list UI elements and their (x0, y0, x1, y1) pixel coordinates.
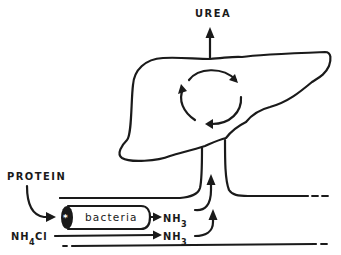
nh3-top-arrow-head-icon (207, 174, 216, 185)
protein-arrow-head-icon (46, 212, 56, 222)
nh3-top-to-portal-arrow (195, 181, 211, 210)
nh3-bottom-arrow-head-icon (209, 209, 218, 220)
bacteria-star-icon: * (63, 213, 68, 223)
intestine-bottom-wall (72, 244, 316, 246)
cycle-arc-top (189, 70, 236, 80)
protein-label: PROTEIN (7, 170, 66, 183)
urea-label: UREA (195, 7, 231, 20)
cycle-arrow-left-icon (178, 84, 187, 94)
bacteria-to-nh3-head-icon (153, 213, 162, 222)
nh3-top-subscript: 3 (181, 219, 187, 229)
bacteria-label: bacteria (85, 211, 138, 223)
nh3-bottom-label: NH (163, 230, 182, 243)
ammonia-urea-diagram: UREA PROTEIN * bacteria NH (0, 0, 341, 255)
protein-input: PROTEIN (7, 170, 66, 222)
nh4cl-to-nh3-head-icon (153, 231, 162, 240)
nh4cl-input: NH 4 Cl (11, 230, 48, 247)
nh3-top-label: NH (163, 212, 182, 225)
bacteria-capsule: * bacteria (61, 206, 150, 229)
portal-vein-left-wall (60, 148, 202, 198)
urea-arrow-head-icon (206, 27, 215, 38)
nh4cl-suffix: Cl (35, 230, 48, 243)
urea-cycle (178, 70, 241, 129)
portal-vein-right-wall (225, 140, 308, 196)
cycle-arc-left (181, 89, 195, 120)
nh3-top: NH 3 (163, 212, 187, 229)
nh3-bottom-subscript: 3 (181, 237, 187, 247)
nh4cl-to-nh3-shaft (55, 235, 155, 236)
urea-output: UREA (195, 7, 231, 58)
cycle-arrow-right-icon (205, 119, 213, 129)
cycle-arc-right (212, 97, 241, 124)
nh4cl-label: NH (11, 230, 30, 243)
